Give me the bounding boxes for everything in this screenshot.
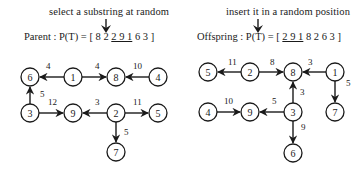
parent-node-label: 2 — [114, 108, 119, 119]
offspring-edge-weight: 5 — [272, 96, 277, 106]
offspring-node-label: 4 — [206, 107, 211, 118]
parent-node-label: 6 — [28, 72, 33, 83]
parent-edge-weight: 10 — [133, 61, 143, 71]
parent-node-label: 5 — [156, 108, 161, 119]
parent-edge-weight: 4 — [46, 61, 51, 71]
offspring-node-label: 7 — [333, 107, 338, 118]
offspring-edge-weight: 9 — [301, 122, 306, 132]
offspring-edge-weight: 11 — [228, 57, 237, 67]
parent-edge-weight: 5 — [40, 89, 45, 99]
parent-node-label: 4 — [156, 72, 161, 83]
insert-arrow-icon — [253, 19, 263, 33]
offspring-edge-weight: 3 — [300, 87, 305, 97]
offspring-edge-weight: 8 — [270, 57, 275, 67]
graph-canvas: 44105123115618439257 1183531059528149376 — [0, 0, 363, 172]
offspring-node-label: 8 — [291, 67, 296, 78]
parent-graph: 44105123115618439257 — [21, 61, 167, 161]
offspring-node-label: 1 — [333, 67, 338, 78]
parent-node-label: 9 — [71, 108, 76, 119]
offspring-node-label: 2 — [248, 67, 253, 78]
select-arrow-icon — [101, 19, 111, 33]
parent-node-label: 3 — [28, 108, 33, 119]
offspring-edge-weight: 3 — [308, 57, 313, 67]
offspring-node-label: 5 — [206, 67, 211, 78]
offspring-edge-weight: 5 — [346, 78, 351, 88]
parent-edge-weight: 11 — [133, 97, 142, 107]
offspring-node-label: 6 — [291, 148, 296, 159]
parent-edge-weight: 3 — [95, 97, 100, 107]
parent-node-label: 7 — [114, 147, 119, 158]
offspring-node-label: 3 — [291, 107, 296, 118]
parent-edge-weight: 5 — [124, 127, 129, 137]
parent-edge-weight: 4 — [95, 61, 100, 71]
parent-edge-weight: 12 — [48, 97, 57, 107]
offspring-edge-weight: 10 — [224, 96, 234, 106]
parent-node-label: 1 — [71, 72, 76, 83]
parent-node-label: 8 — [114, 72, 119, 83]
offspring-node-label: 9 — [248, 107, 253, 118]
offspring-graph: 1183531059528149376 — [199, 57, 351, 162]
